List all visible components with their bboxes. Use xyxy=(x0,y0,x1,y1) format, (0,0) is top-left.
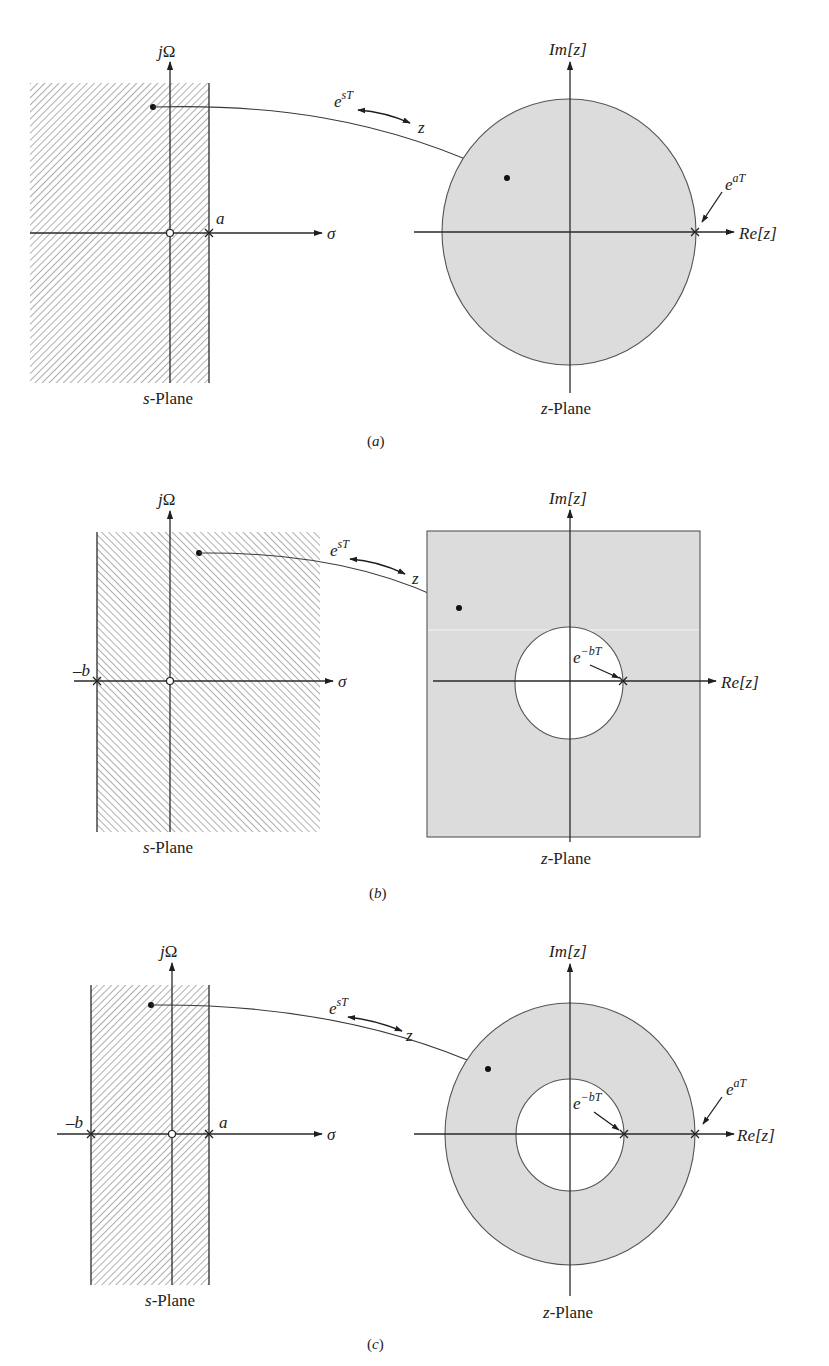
mapping-label-z: z xyxy=(417,118,425,137)
eaT-pointer-arrow xyxy=(703,1097,722,1124)
s-plane-title: s-Plane xyxy=(143,389,193,408)
bidirectional-mapping-arrow xyxy=(348,1017,402,1031)
s-plane-c: –b a σ jΩ s-Plane xyxy=(57,942,336,1310)
mapped-point-dot xyxy=(456,605,462,611)
mapped-point-dot xyxy=(504,175,510,181)
z-plane-title: z-Plane xyxy=(540,849,591,868)
z-plane-title: z-Plane xyxy=(540,399,591,418)
caption-a: (a) xyxy=(367,433,385,450)
mapped-point-dot xyxy=(485,1066,491,1072)
eaT-label: eaT xyxy=(726,1076,748,1099)
j-omega-axis-label: jΩ xyxy=(156,490,175,509)
mapping-label-z: z xyxy=(411,569,419,588)
im-z-axis-label: Im[z] xyxy=(548,489,587,508)
origin-zero-marker xyxy=(167,230,174,237)
s-plane-title: s-Plane xyxy=(145,1291,195,1310)
z-plane-title: z-Plane xyxy=(542,1303,593,1322)
s-plane-b: –b σ jΩ s-Plane xyxy=(72,490,347,857)
bidirectional-mapping-arrow xyxy=(358,110,410,123)
pole-label-minus-b: –b xyxy=(65,1113,83,1132)
panel-a: a σ jΩ s-Plane esT z eaT Re[z] Im[z] z-P… xyxy=(30,40,777,450)
pole-label-a: a xyxy=(219,1113,228,1132)
hatched-region-right-half-plane xyxy=(97,532,320,832)
re-z-axis-label: Re[z] xyxy=(738,224,777,243)
s-to-z-plane-mapping-figure: a σ jΩ s-Plane esT z eaT Re[z] Im[z] z-P… xyxy=(0,0,829,1366)
panel-c: –b a σ jΩ s-Plane esT z e−bT eaT xyxy=(57,942,775,1353)
z-plane-c: e−bT eaT Re[z] Im[z] z-Plane xyxy=(414,942,775,1322)
pole-label-minus-b: –b xyxy=(72,661,90,680)
im-z-axis-label: Im[z] xyxy=(548,942,587,961)
im-z-axis-label: Im[z] xyxy=(548,40,587,59)
panel-b: –b σ jΩ s-Plane esT z e−bT Re[z] Im[z] z… xyxy=(72,489,759,902)
s-plane-title: s-Plane xyxy=(143,838,193,857)
j-omega-axis-label: jΩ xyxy=(158,942,177,961)
caption-c: (c) xyxy=(367,1336,384,1353)
eaT-label: eaT xyxy=(725,171,747,194)
sigma-axis-label: σ xyxy=(327,1125,336,1144)
j-omega-axis-label: jΩ xyxy=(156,42,175,61)
bidirectional-mapping-arrow xyxy=(350,559,405,574)
caption-b: (b) xyxy=(369,885,387,902)
origin-zero-marker xyxy=(169,1131,176,1138)
origin-zero-marker xyxy=(167,678,174,685)
s-plane-a: a σ jΩ s-Plane xyxy=(30,42,336,408)
sigma-axis-label: σ xyxy=(327,224,336,243)
mapping-label-esT: esT xyxy=(334,88,354,111)
eaT-pointer-arrow xyxy=(702,192,722,222)
mapping-label-esT: esT xyxy=(330,537,350,560)
z-plane-b: e−bT Re[z] Im[z] z-Plane xyxy=(427,489,759,868)
hatched-region-vertical-strip xyxy=(91,985,209,1285)
z-plane-a: eaT Re[z] Im[z] z-Plane xyxy=(414,40,777,418)
pole-label-a: a xyxy=(216,209,225,228)
re-z-axis-label: Re[z] xyxy=(720,673,759,692)
excluded-inner-disk xyxy=(515,627,623,739)
mapping-label-esT: esT xyxy=(329,995,349,1018)
re-z-axis-label: Re[z] xyxy=(736,1126,775,1145)
mapping-label-z: z xyxy=(405,1026,413,1045)
sigma-axis-label: σ xyxy=(338,672,347,691)
